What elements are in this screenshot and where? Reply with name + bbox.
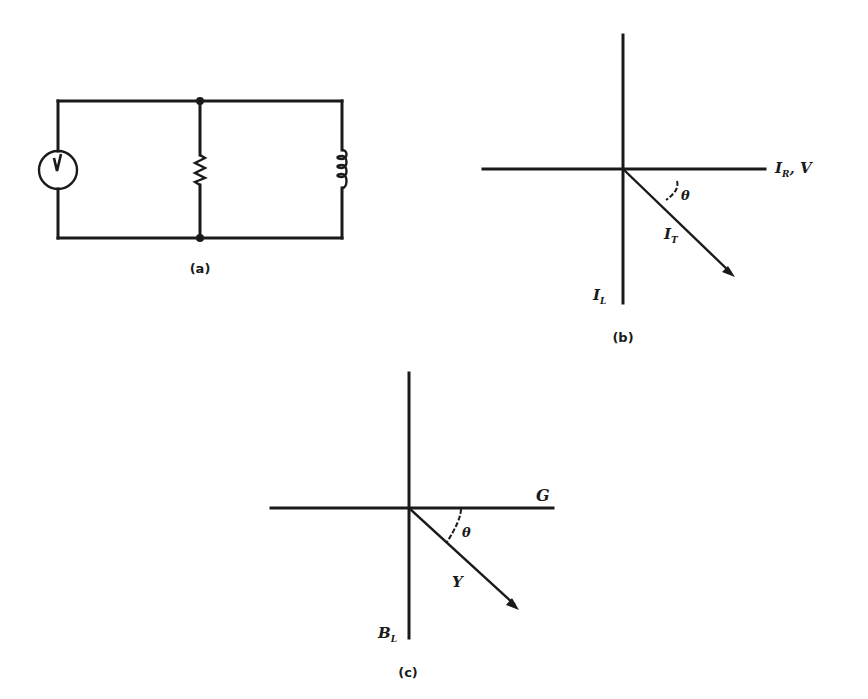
caption-a: (a) bbox=[190, 261, 211, 276]
inductor-icon bbox=[338, 150, 347, 188]
vector-label-it: IT bbox=[663, 225, 679, 245]
axis-label-g: G bbox=[536, 486, 550, 505]
voltage-source-icon bbox=[39, 151, 77, 189]
axis-label-il: IL bbox=[592, 286, 606, 306]
axis-label-ir-v: IR, V bbox=[774, 159, 813, 179]
phasor-diagram-b: θ IT IL IR, V (b) bbox=[483, 35, 813, 345]
resistor-icon bbox=[195, 155, 205, 185]
axis-label-bl: BL bbox=[377, 624, 397, 644]
angle-arc-c bbox=[447, 509, 461, 542]
caption-c: (c) bbox=[398, 665, 418, 680]
circuit-diagram-a: (a) bbox=[39, 97, 347, 276]
angle-label-b: θ bbox=[681, 188, 690, 203]
angle-label-c: θ bbox=[462, 525, 471, 540]
angle-arc-b bbox=[666, 181, 678, 200]
vector-label-y: Y bbox=[452, 573, 464, 591]
caption-b: (b) bbox=[612, 330, 633, 345]
admittance-diagram-c: θ Y G BL (c) bbox=[271, 373, 553, 680]
junction-dot-bottom bbox=[196, 234, 204, 242]
junction-dot-top bbox=[196, 97, 204, 105]
